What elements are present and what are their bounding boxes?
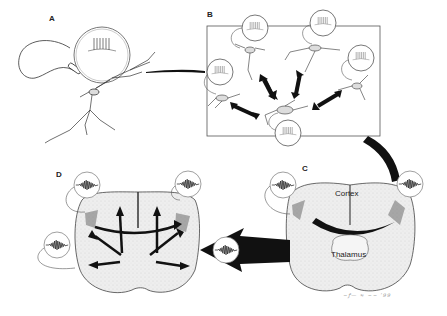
panel-a (19, 27, 155, 143)
figure-canvas: A B C D Cortex Thalamus ~ꝭ— ≈ ~~ ’99 (0, 0, 447, 316)
panel-b-frame (207, 26, 380, 136)
magnifier-circle (74, 27, 130, 83)
electrode-wire (19, 41, 78, 79)
panel-b (204, 10, 380, 146)
cortex-label: Cortex (335, 189, 359, 198)
panel-label-a: A (49, 14, 55, 23)
panel-label-b: B (207, 10, 213, 19)
diagram-svg (0, 0, 447, 316)
neuron-soma (89, 89, 99, 95)
panel-d (38, 171, 201, 293)
arrow-a-to-b (146, 70, 205, 73)
panel-label-c: C (302, 164, 308, 173)
panel-label-d: D (56, 170, 62, 179)
arrow-b-to-c (363, 136, 400, 182)
artist-signature: ~ꝭ— ≈ ~~ ’99 (343, 292, 391, 298)
thalamus-label: Thalamus (331, 250, 366, 259)
